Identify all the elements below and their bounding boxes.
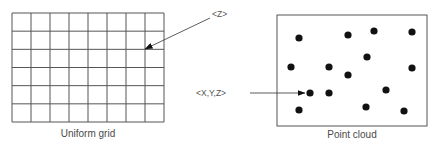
- point-cloud-caption: Point cloud: [327, 129, 376, 140]
- z-annotation-arrow: [145, 18, 210, 49]
- cloud-point: [344, 31, 351, 38]
- cloud-point: [306, 89, 313, 96]
- cloud-point: [325, 63, 332, 70]
- cloud-point: [295, 34, 302, 41]
- cloud-point: [382, 86, 389, 93]
- uniform-grid: [12, 13, 164, 122]
- cloud-point: [362, 103, 369, 110]
- point-cloud-panel: <X,Y,Z> Point cloud: [196, 15, 427, 140]
- cloud-point: [325, 89, 332, 96]
- z-annotation-label: <Z>: [212, 9, 227, 19]
- point-cloud-points: [287, 27, 415, 114]
- cloud-point: [287, 63, 294, 70]
- uniform-grid-panel: <Z> Uniform grid: [12, 9, 227, 139]
- cloud-point: [344, 71, 351, 78]
- cloud-point: [400, 107, 407, 114]
- uniform-grid-caption: Uniform grid: [61, 128, 115, 139]
- cloud-point: [370, 27, 377, 34]
- cloud-point: [295, 106, 302, 113]
- cloud-point: [408, 28, 415, 35]
- cloud-point: [363, 53, 370, 60]
- diagram-canvas: <Z> Uniform grid <X,Y,Z> Point cloud: [0, 0, 439, 145]
- xyz-annotation-label: <X,Y,Z>: [196, 88, 226, 98]
- cloud-point: [408, 64, 415, 71]
